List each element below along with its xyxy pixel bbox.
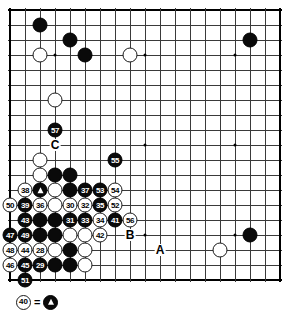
go-stone-black[interactable] [63,33,78,48]
go-stone-black[interactable] [48,213,63,228]
go-stone-white[interactable] [33,153,48,168]
go-stone-black[interactable] [243,33,258,48]
go-stone-black[interactable]: 45 [18,258,33,273]
star-point [144,234,147,237]
go-stone-black[interactable] [48,168,63,183]
go-stone-white[interactable]: 32 [78,198,93,213]
go-stone-white[interactable]: 52 [108,198,123,213]
diagram-caption: 40 = [0,288,289,316]
go-stone-white[interactable] [78,258,93,273]
go-stone-black[interactable]: 37 [78,183,93,198]
go-stone-white[interactable]: 36 [33,198,48,213]
stone-move-number: 31 [64,214,77,227]
go-stone-white[interactable] [78,243,93,258]
go-stone-white[interactable]: 46 [3,258,18,273]
stone-move-number: 52 [109,199,122,212]
go-stone-white[interactable]: 42 [93,228,108,243]
stone-move-number: 42 [94,229,107,242]
grid-line-vertical [205,8,206,282]
go-stone-black[interactable] [33,183,48,198]
go-stone-black[interactable]: 53 [93,183,108,198]
star-point [234,144,237,147]
go-stone-black[interactable]: 49 [18,228,33,243]
go-stone-white[interactable] [48,183,63,198]
caption-move-stone: 40 [16,295,31,310]
go-stone-white[interactable]: 28 [33,243,48,258]
go-stone-white[interactable] [48,243,63,258]
go-stone-white[interactable]: 38 [18,183,33,198]
go-stone-black[interactable] [33,213,48,228]
go-stone-white[interactable] [213,243,228,258]
stone-move-number: 30 [64,199,77,212]
go-stone-white[interactable]: 54 [108,183,123,198]
go-stone-white[interactable]: 48 [3,243,18,258]
go-board[interactable]: 5755383753545039363032355243313334415647… [8,8,282,282]
triangle-icon [48,299,54,305]
stone-move-number: 34 [94,214,107,227]
go-stone-black[interactable] [63,183,78,198]
go-stone-black[interactable]: 51 [18,273,33,288]
go-stone-white[interactable]: 34 [93,213,108,228]
go-stone-black[interactable] [33,228,48,243]
go-stone-white[interactable] [33,48,48,63]
go-stone-white[interactable] [33,168,48,183]
go-stone-white[interactable]: 50 [3,198,18,213]
go-stone-black[interactable] [48,258,63,273]
go-stone-white[interactable]: 56 [123,213,138,228]
go-stone-white[interactable] [63,228,78,243]
board-marker-c: C [50,139,61,151]
stone-move-number: 38 [19,184,32,197]
stone-move-number: 57 [49,124,62,137]
go-stone-black[interactable] [33,18,48,33]
grid-line-vertical [160,8,161,282]
go-stone-black[interactable] [48,228,63,243]
go-stone-black[interactable]: 35 [93,198,108,213]
stone-move-number: 39 [19,199,32,212]
go-stone-white[interactable] [123,48,138,63]
go-stone-white[interactable] [78,228,93,243]
triangle-icon [37,187,43,193]
stone-move-number: 33 [79,214,92,227]
stone-move-number: 55 [109,154,122,167]
go-stone-black[interactable]: 39 [18,198,33,213]
go-stone-black[interactable] [63,168,78,183]
go-stone-white[interactable] [48,198,63,213]
grid-line-vertical [265,8,266,282]
stone-move-number: 29 [34,259,47,272]
go-stone-white[interactable]: 30 [63,198,78,213]
board-marker-b: B [125,229,136,241]
go-stone-black[interactable]: 29 [33,258,48,273]
go-stone-black[interactable]: 31 [63,213,78,228]
stone-move-number: 54 [109,184,122,197]
stone-move-number: 35 [94,199,107,212]
go-stone-black[interactable]: 47 [3,228,18,243]
caption-triangle-stone [43,295,58,310]
go-stone-black[interactable] [63,258,78,273]
stone-move-number: 48 [4,244,17,257]
go-stone-black[interactable]: 33 [78,213,93,228]
stone-move-number: 47 [4,229,17,242]
go-stone-white[interactable] [48,93,63,108]
go-stone-black[interactable]: 55 [108,153,123,168]
star-point [234,234,237,237]
stone-move-number: 51 [19,274,32,287]
star-point [144,144,147,147]
go-stone-black[interactable] [78,48,93,63]
go-stone-black[interactable] [243,228,258,243]
star-point [54,54,57,57]
stone-move-number: 50 [4,199,17,212]
go-stone-black[interactable]: 41 [108,213,123,228]
go-stone-black[interactable]: 57 [48,123,63,138]
stone-move-number: 44 [19,244,32,257]
grid-line-vertical [279,8,281,282]
go-stone-white[interactable]: 44 [18,243,33,258]
stone-move-number: 43 [19,214,32,227]
grid-line-vertical [220,8,221,282]
go-stone-black[interactable]: 43 [18,213,33,228]
board-marker-a: A [155,244,166,256]
caption-equals: = [34,296,40,308]
stone-move-number: 46 [4,259,17,272]
stone-move-number: 53 [94,184,107,197]
grid-line-vertical [190,8,191,282]
go-stone-black[interactable] [63,243,78,258]
